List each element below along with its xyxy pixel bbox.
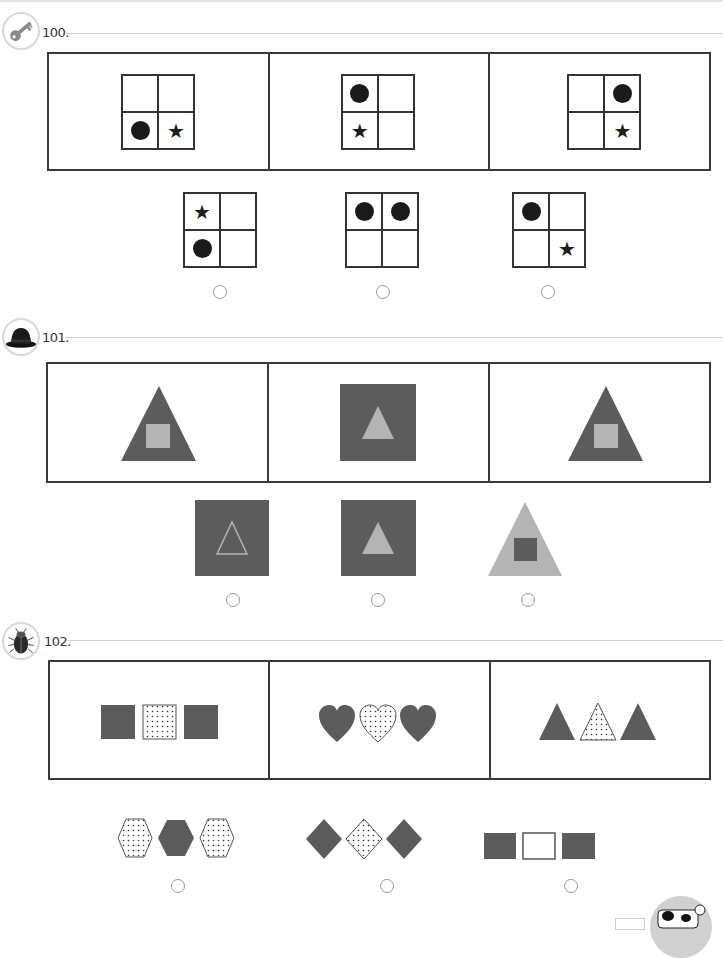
grid-cell [382,193,418,230]
circle-icon [131,121,150,140]
stem-cell [48,364,269,481]
pattern-grid: ★ [121,74,195,150]
stem-cell [491,662,709,778]
option-c-radio[interactable] [521,593,535,607]
option-b-figure[interactable] [306,818,426,860]
hearts-figure [318,704,440,744]
circle-icon [350,84,369,103]
star-icon: ★ [613,119,631,143]
option-a-grid[interactable]: ★ [183,192,257,268]
grid-cell [122,112,158,149]
stem-cell: ★ [270,54,491,169]
option-c-figure[interactable] [484,832,596,860]
grid-cell [122,75,158,112]
stem-cell [270,662,490,778]
option-a-figure[interactable] [195,500,269,576]
divider [68,640,723,641]
option-a-figure[interactable] [116,818,240,858]
stem-cell [490,364,709,481]
grid-cell [220,230,256,267]
question-stem-panel: ★ ★ ★ [47,52,711,171]
circle-icon [355,202,374,221]
question-number: 101. [42,330,69,345]
divider [66,337,723,338]
grid-cell [346,230,382,267]
pattern-grid: ★ [341,74,415,150]
stem-cell: ★ [490,54,709,169]
question-number: 102. [44,634,71,649]
option-c-grid[interactable]: ★ [512,192,586,268]
beetle-icon [2,622,40,660]
option-b-radio[interactable] [371,593,385,607]
circle-icon [391,202,410,221]
grid-cell: ★ [549,230,585,267]
grid-cell [513,230,549,267]
option-c-radio[interactable] [564,879,578,893]
circle-icon [193,239,212,258]
grid-cell [158,75,194,112]
divider [66,33,723,34]
squares-figure [100,704,220,740]
option-a-radio[interactable] [226,593,240,607]
grid-cell [378,112,414,149]
option-b-figure[interactable] [341,500,416,576]
option-c-radio[interactable] [541,285,555,299]
grid-cell [513,193,549,230]
grid-cell [184,230,220,267]
grid-cell: ★ [158,112,194,149]
circle-icon [522,202,541,221]
triangle-with-square-figure [568,386,644,462]
grid-cell: ★ [604,112,640,149]
stem-cell [50,662,270,778]
square-with-triangle-figure [340,384,416,461]
grid-cell [568,112,604,149]
grid-cell [604,75,640,112]
top-border [0,0,723,2]
grid-cell [382,230,418,267]
grid-cell [220,193,256,230]
grid-cell: ★ [184,193,220,230]
star-icon: ★ [167,119,185,143]
pattern-grid: ★ [567,74,641,150]
option-a-radio[interactable] [171,879,185,893]
grid-cell [378,75,414,112]
option-a-radio[interactable] [213,285,227,299]
triangle-with-square-figure [121,386,197,462]
grid-cell [549,193,585,230]
grid-cell: ★ [342,112,378,149]
cow-icon [650,896,712,958]
stem-cell [269,364,490,481]
bowler-hat-icon [2,318,40,356]
option-b-radio[interactable] [380,879,394,893]
option-b-grid[interactable] [345,192,419,268]
triangles-figure [539,702,659,742]
option-b-radio[interactable] [376,285,390,299]
star-icon: ★ [558,237,576,261]
question-stem-panel [48,660,711,780]
option-c-figure[interactable] [488,502,563,577]
circle-icon [613,84,632,103]
star-icon: ★ [351,119,369,143]
question-number: 100. [42,25,69,40]
question-stem-panel [46,362,711,483]
page-tab [615,918,645,930]
key-icon [2,12,40,50]
grid-cell [342,75,378,112]
grid-cell [346,193,382,230]
stem-cell: ★ [49,54,270,169]
grid-cell [568,75,604,112]
star-icon: ★ [193,200,211,224]
